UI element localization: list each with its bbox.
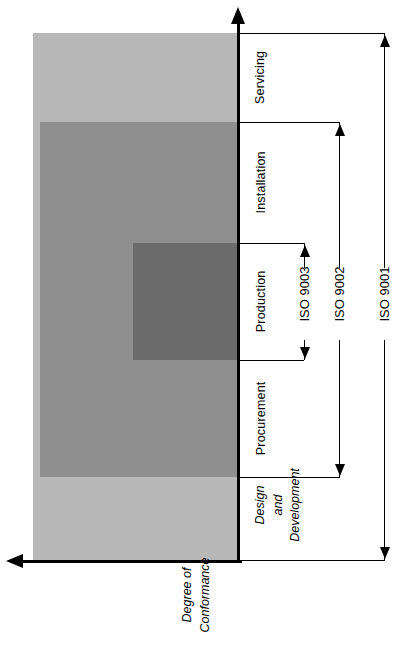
iso9001-tick-top (340, 33, 385, 34)
stage-label-procurement: Procurement (244, 360, 278, 477)
iso9001-arrowhead-top (380, 35, 390, 47)
iso9003-label-text: ISO 9003 (297, 280, 312, 322)
vertical-axis-arrowhead (231, 7, 245, 24)
iso9003-arrowhead-bottom (300, 347, 310, 359)
vertical-axis-line (237, 22, 240, 563)
stage-label-design-and-development: Design and Development (243, 477, 307, 560)
stage-label-design-line3: Development (288, 468, 302, 542)
iso9002-tick-bottom (304, 477, 340, 478)
iso9001-label-text: ISO 9001 (377, 280, 392, 322)
stage-label-installation: Installation (244, 122, 278, 243)
stage-label-production-text: Production (254, 271, 269, 333)
iso9002-arrowhead-bottom (335, 464, 345, 476)
stage-label-procurement-text: Procurement (254, 382, 269, 456)
iso9002-label: ISO 9002 (318, 268, 360, 340)
axis-title-degree-of-conformance: Degree of Conformance (150, 565, 240, 655)
stage-label-installation-text: Installation (254, 151, 269, 213)
axis-title-line2: Conformance (198, 557, 212, 632)
iso9001-tick-bottom (340, 560, 385, 561)
band-iso9003 (133, 243, 240, 360)
horizontal-axis-arrowhead (6, 554, 23, 568)
iso9002-tick-top (304, 122, 340, 123)
stage-label-production: Production (244, 243, 278, 360)
iso9002-label-text: ISO 9002 (332, 280, 347, 322)
iso9001-arrowhead-bottom (380, 547, 390, 559)
stage-label-servicing-text: Servicing (254, 51, 269, 104)
iso9003-arrowhead-top (300, 245, 310, 257)
iso9002-arrowhead-top (335, 124, 345, 136)
stage-label-servicing: Servicing (244, 33, 278, 122)
iso9001-label: ISO 9001 (363, 268, 405, 340)
diagram-canvas: Servicing Installation Production Procur… (0, 0, 405, 658)
